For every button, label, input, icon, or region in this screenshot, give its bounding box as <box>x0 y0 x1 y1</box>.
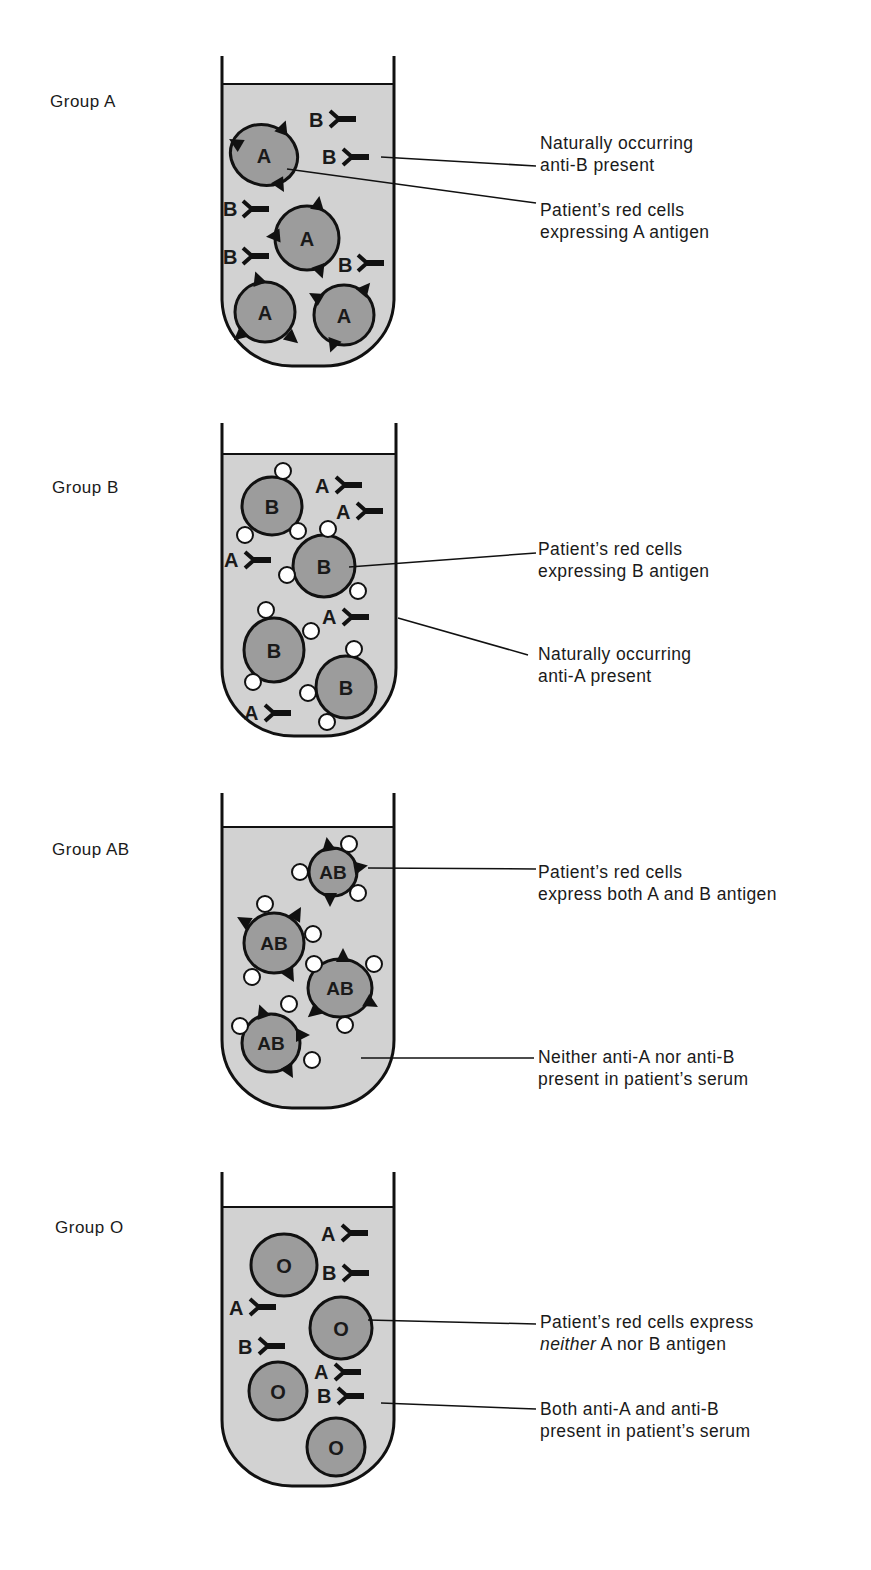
svg-text:AB: AB <box>326 978 353 999</box>
tube-group-o: O O O O A B A B A B <box>222 1172 536 1486</box>
svg-text:AB: AB <box>319 862 346 883</box>
tube-group-ab: AB AB AB <box>222 793 536 1108</box>
svg-text:O: O <box>276 1255 292 1277</box>
svg-text:AB: AB <box>257 1033 284 1054</box>
blood-group-diagram: A A A A B B B B B <box>0 0 871 1570</box>
leader-line <box>381 1403 536 1409</box>
red-cell-o: O <box>307 1418 365 1476</box>
tube-group-a: A A A A B B B B B <box>222 56 536 366</box>
svg-text:A: A <box>315 475 329 497</box>
red-cell-o: O <box>249 1362 307 1420</box>
svg-text:B: B <box>317 556 331 578</box>
svg-text:B: B <box>238 1336 252 1358</box>
red-cell-o: O <box>310 1297 372 1359</box>
svg-text:A: A <box>322 606 336 628</box>
svg-text:A: A <box>257 145 271 167</box>
svg-text:B: B <box>322 1262 336 1284</box>
svg-text:O: O <box>333 1318 349 1340</box>
svg-text:A: A <box>258 302 272 324</box>
svg-text:A: A <box>229 1297 243 1319</box>
svg-text:A: A <box>336 501 350 523</box>
svg-text:A: A <box>300 228 314 250</box>
svg-text:B: B <box>223 198 237 220</box>
tube-group-b: B B B B A A A A A <box>222 423 536 736</box>
svg-text:AB: AB <box>260 933 287 954</box>
svg-text:A: A <box>321 1223 335 1245</box>
svg-text:B: B <box>339 677 353 699</box>
svg-text:B: B <box>338 254 352 276</box>
leader-line <box>368 868 536 869</box>
svg-text:A: A <box>224 549 238 571</box>
leader-line <box>381 157 536 166</box>
svg-text:B: B <box>265 496 279 518</box>
svg-text:A: A <box>314 1361 328 1383</box>
svg-text:B: B <box>317 1385 331 1407</box>
svg-text:O: O <box>270 1381 286 1403</box>
svg-text:B: B <box>322 146 336 168</box>
svg-text:O: O <box>328 1437 344 1459</box>
red-cell-o: O <box>251 1234 317 1296</box>
leader-line <box>398 618 528 655</box>
svg-text:B: B <box>267 640 281 662</box>
svg-text:A: A <box>244 702 258 724</box>
svg-text:B: B <box>309 109 323 131</box>
svg-text:A: A <box>337 305 351 327</box>
svg-text:B: B <box>223 246 237 268</box>
